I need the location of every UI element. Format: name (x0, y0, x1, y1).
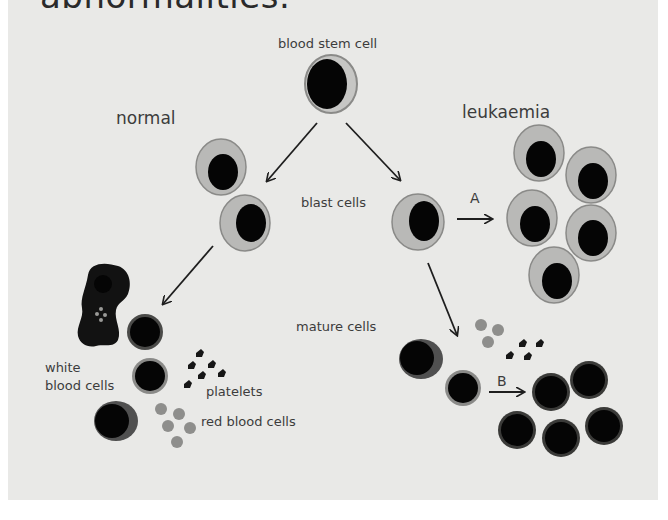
red-blood-cells-leukaemia (475, 319, 504, 348)
leukaemia-blast-cell (392, 194, 444, 250)
stem-cell (305, 55, 357, 113)
arrow-to-normal-blast (267, 123, 317, 181)
white-blood-cell-2 (132, 358, 168, 394)
arrow-to-leukaemia-mature (428, 263, 457, 335)
white-blood-cell-1 (127, 314, 163, 350)
label-white-blood-cells-1: white (45, 360, 81, 375)
mature-white-cell-small (445, 370, 481, 406)
mature-white-cell-large (399, 339, 443, 379)
white-blood-cell-3 (94, 401, 138, 441)
label-blood-stem-cell: blood stem cell (278, 36, 377, 51)
leukaemia-diagram: blood stem cell normal leukaemia blast c… (0, 0, 668, 520)
arrow-to-leukaemia-blast (346, 123, 400, 180)
normal-blast-cell-2 (220, 195, 270, 251)
label-blast-cells: blast cells (301, 195, 366, 210)
red-blood-cells-normal (155, 403, 196, 448)
label-mature-cells: mature cells (296, 319, 377, 334)
arrow-to-normal-mature (163, 246, 213, 304)
label-arrow-b: B (497, 373, 507, 389)
label-platelets: platelets (206, 384, 263, 399)
abnormal-mature-cell-cluster (498, 361, 623, 457)
label-white-blood-cells-2: blood cells (45, 378, 115, 393)
label-arrow-a: A (470, 190, 480, 206)
platelets-normal (184, 349, 226, 388)
white-blood-cell-macrophage (78, 264, 130, 347)
label-normal: normal (116, 108, 176, 128)
normal-blast-cell-1 (196, 139, 246, 195)
label-red-blood-cells: red blood cells (201, 414, 296, 429)
leukaemia-cell-cluster (507, 125, 616, 303)
platelets-leukaemia (506, 339, 544, 360)
label-leukaemia: leukaemia (462, 102, 550, 122)
